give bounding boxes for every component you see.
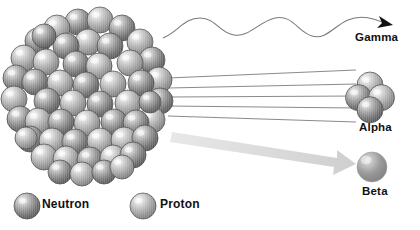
nucleus-nucleon — [48, 160, 72, 184]
legend-swatch-neutron — [14, 193, 40, 219]
beta-label: Beta — [362, 185, 388, 197]
gamma-arrowhead-icon — [377, 16, 393, 28]
nucleus-nucleon — [139, 91, 161, 113]
alpha-ray-line — [168, 84, 356, 88]
alpha-ray-lines — [168, 70, 356, 122]
alpha-ray-line — [168, 106, 356, 108]
beta-particle — [357, 152, 387, 182]
radioactive-decay-diagram: Gamma Alpha Beta Neutron Proton — [0, 0, 420, 230]
atomic-nucleus — [1, 7, 173, 186]
nucleus-nucleon — [15, 127, 37, 149]
beta-ray-arrow — [170, 132, 356, 175]
nucleus-nucleon — [110, 155, 134, 179]
alpha-ray-line — [168, 96, 356, 97]
nucleus-nucleon — [70, 162, 94, 186]
alpha-nucleon — [357, 97, 383, 123]
legend-label-proton: Proton — [160, 197, 200, 211]
alpha-ray-line — [168, 116, 356, 122]
nucleus-nucleon — [32, 24, 56, 48]
alpha-label: Alpha — [359, 121, 392, 133]
legend-label-neutron: Neutron — [42, 197, 89, 211]
beta-arrow-shape — [170, 132, 356, 175]
gamma-label: Gamma — [355, 31, 398, 43]
beta-highlight — [361, 156, 372, 164]
alpha-ray-line — [168, 70, 356, 78]
legend-swatch-proton — [130, 193, 156, 219]
alpha-particle — [346, 72, 395, 123]
beta-particle-sphere — [357, 152, 387, 182]
